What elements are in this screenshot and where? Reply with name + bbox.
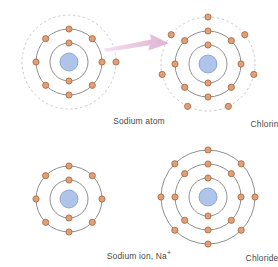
- caption-chlorine-atom-text: Chlorine atom: [251, 119, 278, 129]
- atom-diagram-chloride-ion: [155, 144, 261, 250]
- electron-transfer-arrow: [103, 30, 175, 64]
- electron: [238, 161, 244, 167]
- electron: [251, 71, 257, 77]
- electron: [66, 78, 72, 84]
- electron: [43, 173, 49, 179]
- electron: [99, 196, 105, 202]
- electron: [172, 194, 178, 200]
- caption-chloride-ion-text: Chloride ion, Cl: [246, 253, 278, 263]
- electron: [228, 217, 234, 223]
- electron: [66, 26, 72, 32]
- electron: [33, 196, 39, 202]
- nucleus: [60, 190, 78, 208]
- electron: [252, 194, 258, 200]
- nucleus: [199, 188, 217, 206]
- nucleus: [199, 55, 217, 73]
- atom-diagram-sodium-ion: [30, 160, 108, 238]
- electron: [89, 219, 95, 225]
- electron: [225, 103, 231, 109]
- electron: [66, 92, 72, 98]
- electron: [89, 173, 95, 179]
- electron: [89, 82, 95, 88]
- electron: [182, 171, 188, 177]
- atom-diagram-chlorine-atom: [155, 11, 261, 117]
- electron: [205, 94, 211, 100]
- electron: [205, 175, 211, 181]
- electron: [185, 103, 191, 109]
- electron: [242, 32, 248, 38]
- electron: [33, 59, 39, 65]
- electron: [238, 227, 244, 233]
- electron: [182, 217, 188, 223]
- electron: [205, 227, 211, 233]
- electron: [43, 36, 49, 42]
- electron: [66, 215, 72, 221]
- electron: [205, 161, 211, 167]
- electron: [158, 194, 164, 200]
- electron: [228, 84, 234, 90]
- electron: [159, 71, 165, 77]
- electron: [172, 227, 178, 233]
- electron: [66, 229, 72, 235]
- caption-chloride-ion: Chloride ion, Cl−: [139, 251, 278, 263]
- electron: [238, 194, 244, 200]
- electron: [238, 61, 244, 67]
- electron: [66, 40, 72, 46]
- electron: [66, 163, 72, 169]
- electron: [228, 38, 234, 44]
- nucleus: [60, 53, 78, 71]
- electron: [205, 147, 211, 153]
- electron: [205, 28, 211, 34]
- electron: [205, 213, 211, 219]
- caption-chlorine-atom: Chlorine atom: [139, 119, 278, 129]
- electron: [228, 171, 234, 177]
- electron: [205, 241, 211, 247]
- electron: [172, 161, 178, 167]
- electron: [89, 36, 95, 42]
- electron: [43, 82, 49, 88]
- diagram-canvas: Sodium atom Chlorine atom Sodium ion, Na…: [0, 0, 278, 267]
- electron: [205, 14, 211, 20]
- electron: [182, 84, 188, 90]
- electron: [205, 80, 211, 86]
- electron: [205, 42, 211, 48]
- electron: [43, 219, 49, 225]
- electron: [182, 38, 188, 44]
- electron: [66, 177, 72, 183]
